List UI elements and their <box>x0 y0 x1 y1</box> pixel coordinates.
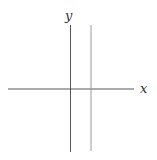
coordinate-diagram: y x <box>0 0 157 160</box>
x-axis-label: x <box>140 81 148 96</box>
y-axis-label: y <box>64 8 73 23</box>
